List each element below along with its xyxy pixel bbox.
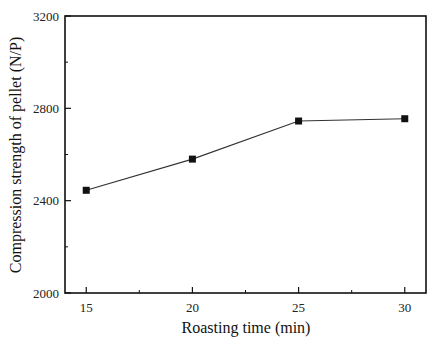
y-tick-label: 2800 xyxy=(33,101,59,116)
x-tick-label: 25 xyxy=(292,300,305,315)
y-tick-label: 2400 xyxy=(33,193,59,208)
y-tick-label: 2000 xyxy=(33,286,59,301)
x-tick-label: 15 xyxy=(80,300,93,315)
square-marker xyxy=(83,187,90,194)
square-marker xyxy=(189,156,196,163)
series-line xyxy=(86,119,405,191)
tick-labels: 152025302000240028003200 xyxy=(33,9,411,316)
axis-ticks xyxy=(65,16,405,293)
x-axis-title: Roasting time (min) xyxy=(182,319,311,337)
square-marker xyxy=(401,115,408,122)
y-tick-label: 3200 xyxy=(33,9,59,24)
line-chart: 152025302000240028003200 Roasting time (… xyxy=(0,0,436,348)
square-marker xyxy=(295,118,302,125)
plot-frame xyxy=(65,16,426,293)
data-series xyxy=(83,115,409,194)
x-tick-label: 20 xyxy=(186,300,199,315)
y-axis-title: Compression strength of pellet (N/P) xyxy=(7,37,25,273)
plot-border xyxy=(65,16,426,293)
x-tick-label: 30 xyxy=(398,300,411,315)
